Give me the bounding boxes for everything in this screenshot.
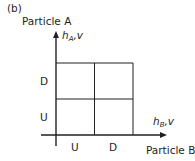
row-label-U: U [40, 112, 48, 123]
row-label-D: D [40, 76, 48, 87]
col-label-D: D [109, 142, 117, 153]
x-variable: h [153, 115, 160, 127]
col-label-U: U [71, 142, 79, 153]
y-variable: h [62, 29, 69, 41]
x-axis-title: Particle B [146, 145, 195, 156]
y-axis-title: Particle A [22, 16, 71, 27]
panel-label: (b) [7, 3, 22, 14]
x-suffix: ,v [164, 115, 174, 127]
y-suffix: ,v [73, 29, 83, 41]
y-axis-arrow-icon [53, 31, 59, 38]
x-axis-variable-label: hB,v [153, 116, 174, 129]
x-axis-arrow-icon [160, 132, 167, 138]
y-axis-variable-label: hA,v [62, 30, 83, 43]
